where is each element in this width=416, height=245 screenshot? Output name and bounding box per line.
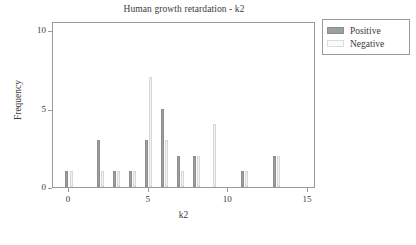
legend-label-positive: Positive [350, 26, 381, 36]
y-tick-0 [48, 188, 52, 189]
bar-negative-x2 [101, 171, 104, 187]
plot-area [53, 23, 314, 187]
legend-item-negative: Negative [327, 37, 404, 50]
bar-positive-x13 [273, 156, 276, 187]
legend-swatch-positive [327, 27, 344, 34]
legend-item-positive: Positive [327, 24, 404, 37]
bar-positive-x4 [129, 171, 132, 187]
x-tick-5 [148, 188, 149, 192]
bar-negative-x3 [117, 171, 120, 187]
bar-positive-x8 [193, 156, 196, 187]
x-tick-15 [307, 188, 308, 192]
bar-negative-x13 [277, 156, 280, 187]
bar-negative-x11 [245, 171, 248, 187]
bar-positive-x0 [65, 171, 68, 187]
bar-negative-x8 [197, 156, 200, 187]
x-tick-0 [68, 188, 69, 192]
y-tick-label-10: 10 [20, 25, 46, 35]
legend-swatch-negative [327, 40, 344, 47]
bar-positive-x3 [113, 171, 116, 187]
x-tick-label-10: 10 [215, 194, 239, 204]
bar-negative-x0 [70, 171, 73, 187]
plot-frame [52, 22, 315, 188]
bar-negative-x4 [133, 171, 136, 187]
x-tick-label-0: 0 [56, 194, 80, 204]
chart-figure: Human growth retardation - k2 Frequency … [0, 0, 416, 245]
bar-negative-x7 [181, 171, 184, 187]
y-axis-title: Frequency [13, 60, 23, 140]
y-tick-10 [48, 31, 52, 32]
bar-negative-x6 [165, 140, 168, 187]
y-tick-label-5: 5 [20, 104, 46, 114]
x-tick-label-15: 15 [295, 194, 319, 204]
y-tick-5 [48, 110, 52, 111]
bar-positive-x7 [177, 156, 180, 187]
bar-positive-x2 [97, 140, 100, 187]
chart-legend: Positive Negative [322, 19, 410, 55]
y-tick-label-0: 0 [20, 182, 46, 192]
bar-positive-x6 [161, 109, 164, 187]
bar-positive-x5 [145, 140, 148, 187]
x-tick-10 [227, 188, 228, 192]
x-axis-title: k2 [52, 210, 315, 220]
legend-label-negative: Negative [350, 39, 384, 49]
bar-negative-x9 [213, 124, 216, 187]
x-tick-label-5: 5 [136, 194, 160, 204]
chart-title: Human growth retardation - k2 [52, 4, 316, 14]
bar-negative-x5 [149, 77, 152, 187]
bar-positive-x11 [241, 171, 244, 187]
